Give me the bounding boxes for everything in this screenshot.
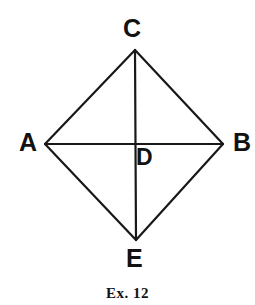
figure-page: A B C D E Ex. 12 bbox=[0, 0, 255, 305]
figure-caption: Ex. 12 bbox=[0, 284, 255, 302]
side-CB-line bbox=[135, 50, 223, 144]
vertex-label-d: D bbox=[136, 146, 153, 169]
vertex-label-b: B bbox=[233, 130, 251, 155]
side-EA-line bbox=[45, 144, 136, 240]
side-AC-line bbox=[45, 50, 135, 144]
vertex-label-e: E bbox=[126, 246, 143, 271]
vertex-label-c: C bbox=[123, 16, 141, 41]
vertex-label-a: A bbox=[19, 130, 37, 155]
